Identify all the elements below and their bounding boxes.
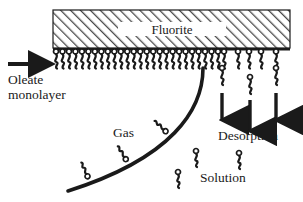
molecule-tail-icon xyxy=(101,54,103,68)
molecule-tail-icon xyxy=(172,54,174,68)
molecule-tail-icon xyxy=(94,54,96,68)
monolayer-molecule xyxy=(190,49,195,69)
molecule-tail-icon xyxy=(152,54,154,68)
monolayer-molecule xyxy=(170,49,175,69)
monolayer-molecule xyxy=(203,49,208,69)
molecule-tail-icon xyxy=(238,156,240,169)
monolayer-molecule xyxy=(99,49,104,69)
monolayer-molecule xyxy=(177,49,182,69)
monolayer-molecule-sparse xyxy=(259,49,264,69)
molecule-tail-icon xyxy=(81,54,83,68)
monolayer-molecule xyxy=(209,49,214,69)
monolayer-molecule xyxy=(92,49,97,69)
monolayer-molecule-sparse xyxy=(236,49,241,69)
molecule-tail-icon xyxy=(146,54,148,68)
desorption-group xyxy=(220,66,279,132)
molecule-tail-icon xyxy=(221,71,223,85)
molecule-tail-icon xyxy=(211,54,213,68)
monolayer-molecule xyxy=(54,49,59,69)
molecule-tail-icon xyxy=(154,120,164,131)
solution-molecule-3 xyxy=(176,170,181,189)
molecule-tail-icon xyxy=(120,54,122,68)
monolayer-molecule-sparse xyxy=(247,49,252,69)
molecule-tail-icon xyxy=(107,54,109,68)
molecule-tail-icon xyxy=(177,175,179,188)
oleate-label-line1: Oleate xyxy=(8,72,43,87)
molecule-tail-icon xyxy=(68,54,70,68)
molecule-tail-icon xyxy=(185,54,187,68)
oleate-label-line2: monolayer xyxy=(8,87,66,102)
molecule-tail-icon xyxy=(275,71,277,85)
monolayer-molecule xyxy=(125,49,130,69)
monolayer-molecule xyxy=(105,49,110,69)
molecule-tail-icon xyxy=(248,54,250,68)
desorbing-molecule-3 xyxy=(274,66,279,86)
molecule-tail-icon xyxy=(165,54,167,68)
diagram-svg: Fluorite Oleate monolayer Gas Desorption… xyxy=(0,0,303,202)
monolayer-molecule xyxy=(183,49,188,69)
solution-molecule-1 xyxy=(194,149,199,168)
monolayer-molecule xyxy=(144,49,149,69)
molecule-tail-icon xyxy=(126,54,128,68)
monolayer-molecule xyxy=(196,49,201,69)
figure-canvas: Fluorite Oleate monolayer Gas Desorption… xyxy=(0,0,303,202)
molecule-tail-icon xyxy=(195,154,197,167)
monolayer-molecule xyxy=(112,49,117,69)
monolayer-molecule xyxy=(60,49,65,69)
monolayer-molecule xyxy=(151,49,156,69)
desorption-label: Desorption xyxy=(218,128,278,143)
solution-molecule-2 xyxy=(237,151,242,170)
arc-molecule xyxy=(116,145,129,163)
molecule-tail-icon xyxy=(159,54,161,68)
fluorite-substrate: Fluorite xyxy=(53,10,290,48)
molecule-tail-icon xyxy=(55,54,57,68)
molecule-tail-icon xyxy=(133,54,135,68)
oleate-monolayer xyxy=(54,49,279,69)
molecule-tail-icon xyxy=(249,80,251,94)
molecule-tail-icon xyxy=(117,146,125,158)
monolayer-molecule xyxy=(79,49,84,69)
molecule-tail-icon xyxy=(114,54,116,68)
monolayer-molecule xyxy=(138,49,143,69)
monolayer-molecule xyxy=(157,49,162,69)
molecule-tail-icon xyxy=(88,54,90,68)
gas-bubble-arc xyxy=(68,68,203,191)
molecule-tail-icon xyxy=(62,54,64,68)
monolayer-molecule xyxy=(86,49,91,69)
molecule-tail-icon xyxy=(260,54,262,68)
gas-bubble-interface xyxy=(68,68,203,191)
monolayer-molecule xyxy=(131,49,136,69)
desorbing-molecule-1 xyxy=(220,66,225,86)
monolayer-molecule xyxy=(66,49,71,69)
solution-label: Solution xyxy=(200,170,246,185)
arc-molecule xyxy=(153,119,169,135)
molecule-tail-icon xyxy=(191,54,193,68)
molecule-tail-icon xyxy=(139,54,141,68)
desorbing-molecule-2 xyxy=(248,75,253,95)
molecule-tail-icon xyxy=(198,54,200,68)
molecule-tail-icon xyxy=(204,54,206,68)
gas-label: Gas xyxy=(113,125,134,140)
monolayer-molecule xyxy=(73,49,78,69)
molecule-tail-icon xyxy=(75,54,77,68)
monolayer-molecule xyxy=(118,49,123,69)
substrate-label: Fluorite xyxy=(151,22,192,37)
arc-molecule xyxy=(80,161,91,179)
molecule-tail-icon xyxy=(81,162,88,174)
molecule-tail-icon xyxy=(237,54,239,68)
monolayer-molecule xyxy=(164,49,169,69)
molecule-tail-icon xyxy=(178,54,180,68)
